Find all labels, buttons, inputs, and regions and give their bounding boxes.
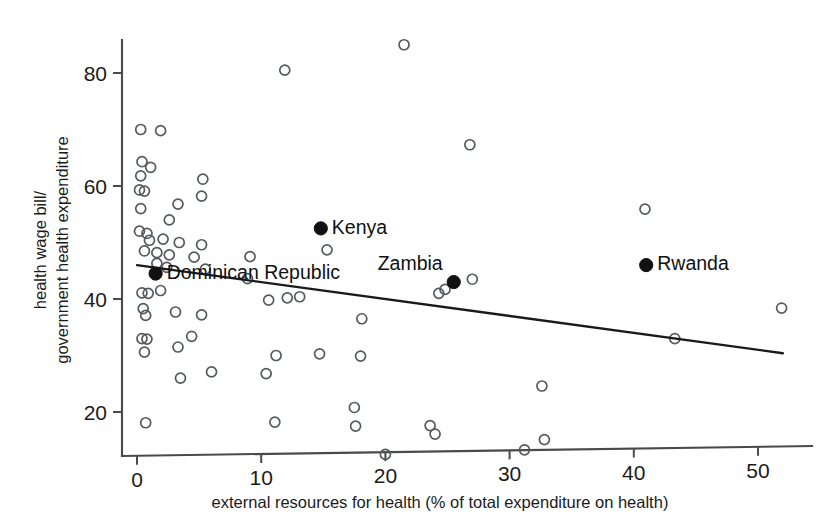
data-point-23	[322, 245, 332, 255]
highlight-point-zambia	[447, 275, 460, 288]
point-label-rwanda: Rwanda	[657, 252, 729, 274]
y-tick-label-80: 80	[84, 62, 107, 85]
data-point-15	[158, 234, 168, 244]
data-point-31	[282, 293, 292, 303]
y-axis-title-line2: government health expenditure	[53, 136, 71, 364]
data-point-39	[171, 307, 181, 317]
data-point-55	[537, 381, 547, 391]
data-point-66	[399, 40, 409, 50]
data-points-highlighted: Dominican RepublicKenyaZambiaRwanda	[149, 216, 729, 289]
x-tick-label-0: 0	[131, 468, 143, 491]
data-point-32	[264, 295, 274, 305]
data-point-9	[173, 199, 183, 209]
data-point-1	[156, 126, 166, 136]
data-point-45	[187, 331, 197, 341]
point-label-zambia: Zambia	[378, 252, 443, 274]
data-point-65	[280, 65, 290, 75]
data-point-61	[430, 429, 440, 439]
scatter-plot-svg: Dominican RepublicKenyaZambiaRwanda 0102…	[0, 0, 818, 525]
data-point-42	[777, 303, 787, 313]
data-point-14	[144, 235, 154, 245]
point-label-kenya: Kenya	[332, 216, 387, 238]
x-tick-label-40: 40	[622, 461, 645, 484]
highlight-point-rwanda	[640, 259, 653, 272]
data-point-35	[467, 274, 477, 284]
data-point-59	[351, 421, 361, 431]
data-point-3	[146, 162, 156, 172]
data-point-33	[295, 292, 305, 302]
data-point-10	[136, 204, 146, 214]
x-tick-label-30: 30	[498, 462, 521, 485]
x-axis-line	[122, 446, 812, 456]
data-point-11	[164, 215, 174, 225]
data-point-0	[136, 125, 146, 135]
data-point-37	[138, 304, 148, 314]
data-point-47	[271, 351, 281, 361]
x-tick-label-10: 10	[250, 466, 273, 489]
data-point-30	[156, 286, 166, 296]
data-point-49	[356, 351, 366, 361]
data-point-29	[143, 288, 153, 298]
data-point-51	[139, 347, 149, 357]
y-tick-label-60: 60	[84, 175, 107, 198]
data-point-46	[173, 342, 183, 352]
data-point-56	[349, 402, 359, 412]
data-point-8	[197, 191, 207, 201]
data-point-19	[152, 248, 162, 258]
data-points-open	[134, 40, 786, 460]
y-axis-title-line1: health wage bill/	[31, 190, 49, 309]
y-tick-label-20: 20	[84, 401, 107, 424]
data-point-57	[141, 418, 151, 428]
data-point-67	[465, 140, 475, 150]
data-point-40	[197, 310, 207, 320]
x-axis-title: external resources for health (% of tota…	[212, 493, 669, 511]
data-point-53	[261, 369, 271, 379]
axes	[122, 40, 812, 456]
data-point-20	[164, 250, 174, 260]
data-point-68	[640, 204, 650, 214]
data-point-5	[198, 174, 208, 184]
point-label-dominican-republic: Dominican Republic	[167, 261, 341, 283]
data-point-4	[136, 171, 146, 181]
x-tick-label-50: 50	[746, 459, 769, 482]
y-tick-label-40: 40	[84, 288, 107, 311]
x-tick-label-20: 20	[374, 464, 397, 487]
scatter-chart-figure: Dominican RepublicKenyaZambiaRwanda 0102…	[0, 0, 818, 525]
data-point-54	[175, 373, 185, 383]
highlight-point-kenya	[314, 222, 327, 235]
data-point-48	[315, 349, 325, 359]
data-point-62	[539, 435, 549, 445]
data-point-41	[357, 314, 367, 324]
data-point-16	[174, 238, 184, 248]
highlight-point-dominican-republic	[149, 267, 162, 280]
data-point-17	[197, 240, 207, 250]
data-point-18	[139, 246, 149, 256]
data-point-38	[141, 310, 151, 320]
data-point-52	[207, 367, 217, 377]
data-point-58	[270, 417, 280, 427]
